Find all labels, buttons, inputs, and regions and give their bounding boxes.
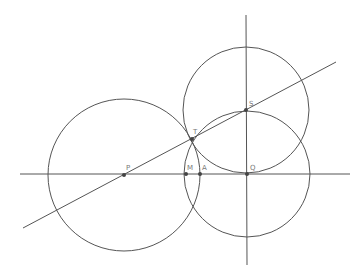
geometry-diagram: PMAQTS [0,0,364,280]
point-t [190,137,194,141]
point-label-t: T [192,128,198,136]
point-label-a: A [202,164,207,172]
point-label-m: M [187,164,193,172]
point-s [244,108,248,112]
vertical-line [246,15,247,265]
point-a [198,172,202,176]
point-m [184,172,188,176]
point-label-p: P [126,164,130,172]
point-label-s: S [249,100,254,108]
circles-group [48,47,310,251]
point-q [245,172,249,176]
slanted-line [23,62,336,228]
point-p [122,173,126,177]
point-label-q: Q [250,164,256,172]
